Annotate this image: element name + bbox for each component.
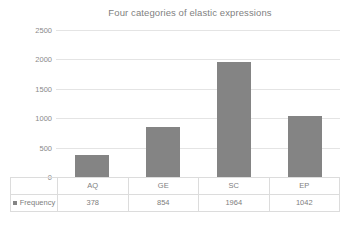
y-axis-tick-label: 500 xyxy=(22,143,52,152)
table-row-categories: AQGESCEP xyxy=(11,178,340,195)
bar-slot-aq xyxy=(56,30,127,177)
table-cell-category-ge: GE xyxy=(128,178,199,195)
y-axis-tick-label: 2000 xyxy=(22,55,52,64)
table-corner-blank xyxy=(11,178,58,195)
table-cell-value-ep: 1042 xyxy=(269,195,340,212)
y-axis-tick-label: 1000 xyxy=(22,114,52,123)
table-cell-category-ep: EP xyxy=(269,178,340,195)
table-cell-value-sc: 1964 xyxy=(199,195,270,212)
y-axis-tick-label: 1500 xyxy=(22,84,52,93)
legend-frequency: Frequency xyxy=(11,195,58,212)
legend-swatch-icon xyxy=(13,201,17,205)
table-cell-value-aq: 378 xyxy=(58,195,129,212)
table-cell-value-ge: 854 xyxy=(128,195,199,212)
bar-aq[interactable] xyxy=(75,155,109,177)
chart-title: Four categories of elastic expressions xyxy=(40,7,340,18)
table-row-frequency: Frequency 37885419641042 xyxy=(11,195,340,212)
bar-slot-ep xyxy=(269,30,340,177)
bars-layer xyxy=(56,30,340,177)
y-axis-tick-label: 2500 xyxy=(22,26,52,35)
bar-ep[interactable] xyxy=(288,116,322,177)
data-table: AQGESCEP Frequency 37885419641042 xyxy=(10,177,340,212)
legend-label: Frequency xyxy=(20,195,55,211)
bar-chart: Four categories of elastic expressions 2… xyxy=(0,0,348,225)
bar-sc[interactable] xyxy=(217,62,251,177)
table-cell-category-aq: AQ xyxy=(58,178,129,195)
y-axis: 25002000150010005000 xyxy=(18,30,52,177)
bar-ge[interactable] xyxy=(146,127,180,177)
bar-slot-sc xyxy=(198,30,269,177)
plot-area xyxy=(56,30,340,177)
table-cell-category-sc: SC xyxy=(199,178,270,195)
bar-slot-ge xyxy=(127,30,198,177)
